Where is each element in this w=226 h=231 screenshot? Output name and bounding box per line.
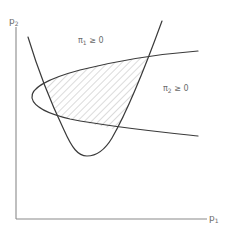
pi2-relation: ≥ 0 [174,84,188,93]
y-axis-label: p2 [9,17,19,27]
pi2-region-label: π2 ≥ 0 [163,85,189,94]
feasible-region-hatch [45,57,148,130]
y-axis-label-sub: 2 [15,20,19,27]
profit-region-diagram [0,0,226,231]
x-axis-label-sub: 1 [215,217,219,224]
pi1-relation: ≥ 0 [89,36,103,45]
pi2-sub: 2 [168,87,172,94]
x-axis-label: p1 [209,214,219,224]
pi1-region-label: π1 ≥ 0 [78,37,104,46]
pi1-sub: 1 [83,39,87,46]
